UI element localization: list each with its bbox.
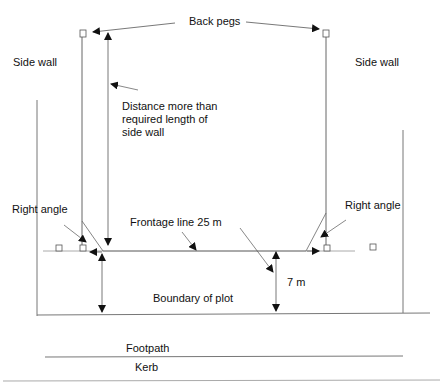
- boundary-line: [37, 313, 430, 315]
- left-back-peg: [80, 30, 86, 37]
- right-angle-right-pointer: [321, 220, 346, 237]
- side-wall-right-label: Side wall: [355, 56, 399, 69]
- left-outer-front-peg: [56, 245, 62, 251]
- distance-label-pointer: [111, 84, 138, 90]
- right-front-peg: [324, 245, 330, 251]
- right-outer-front-peg: [370, 244, 376, 250]
- frontage-label-pointer: [182, 232, 196, 250]
- frontage-line-label: Frontage line 25 m: [130, 216, 222, 229]
- back-pegs-arrow-left: [93, 23, 175, 32]
- seven-m-label: 7 m: [287, 276, 305, 289]
- back-pegs-arrow-right: [246, 22, 319, 29]
- kerb-line: [3, 380, 440, 381]
- back-pegs-label: Back pegs: [189, 15, 240, 28]
- footpath-label: Footpath: [126, 342, 169, 355]
- distance-label-line2: required length of: [122, 113, 208, 126]
- distance-label-line1: Distance more than: [122, 100, 217, 113]
- right-angle-right-label: Right angle: [345, 199, 401, 212]
- distance-label-line3: side wall: [122, 126, 164, 139]
- left-front-peg: [80, 245, 86, 251]
- side-wall-left-label: Side wall: [13, 56, 57, 69]
- footpath-line: [45, 356, 403, 357]
- kerb-label: Kerb: [135, 361, 158, 374]
- boundary-of-plot-label: Boundary of plot: [153, 292, 233, 305]
- right-back-peg: [323, 30, 329, 37]
- right-angle-left-pointer: [64, 225, 86, 242]
- right-right-angle-diagonal: [306, 213, 326, 251]
- seven-m-label-pointer: [240, 228, 273, 272]
- right-angle-left-label: Right angle: [12, 203, 68, 216]
